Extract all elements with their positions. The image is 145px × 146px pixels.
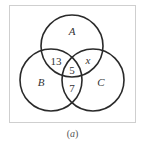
region-a-c-value: x <box>85 54 91 66</box>
set-c-label: C <box>97 76 105 88</box>
set-a-label: A <box>68 25 76 37</box>
region-a-b-value: 13 <box>51 55 63 67</box>
venn-diagram: A B C 13 x 5 7 <box>0 0 145 146</box>
region-a-b-c-value: 5 <box>69 64 75 76</box>
set-c-circle <box>62 49 124 111</box>
caption-close-paren: ) <box>75 128 78 139</box>
venn-diagram-figure: A B C 13 x 5 7 (a) <box>0 0 145 146</box>
figure-caption: (a) <box>0 128 145 139</box>
region-b-c-value: 7 <box>69 82 75 94</box>
set-b-label: B <box>38 76 45 88</box>
